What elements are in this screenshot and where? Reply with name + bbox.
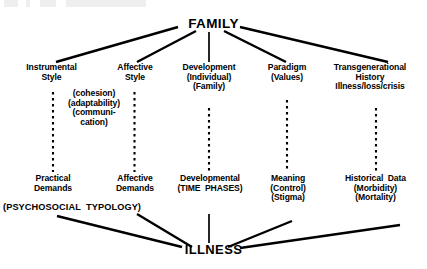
node-practical-demands: Practical Demands bbox=[13, 174, 93, 193]
edge-family-to-instrumental bbox=[56, 27, 178, 62]
diagram-edges bbox=[0, 0, 427, 269]
node-affective-demands: Affective Demands bbox=[98, 174, 172, 193]
node-transgenerational-history: Transgenerational History Illness/loss/c… bbox=[313, 63, 427, 92]
family-illness-diagram: FAMILY Instrumental Style Affective Styl… bbox=[0, 0, 427, 269]
node-meaning: Meaning (Control) (Stigma) bbox=[253, 174, 323, 203]
node-developmental-time-phases: Developmental (TIME PHASES) bbox=[164, 174, 256, 193]
node-historical-data: Historical Data (Morbidity) (Mortality) bbox=[324, 174, 427, 203]
edge-family-to-transgenerational bbox=[240, 27, 388, 62]
node-family: FAMILY bbox=[0, 16, 427, 31]
node-development: Development (Individual) (Family) bbox=[161, 63, 257, 92]
node-instrumental-style: Instrumental Style bbox=[0, 63, 103, 82]
annotation-style-parentheticals: (cohesion) (adaptability) (communi- cati… bbox=[56, 89, 132, 128]
annotation-psychosocial-typology: (PSYCHOSOCIAL TYPOLOGY) bbox=[3, 202, 175, 212]
node-illness: ILLNESS bbox=[0, 243, 427, 258]
